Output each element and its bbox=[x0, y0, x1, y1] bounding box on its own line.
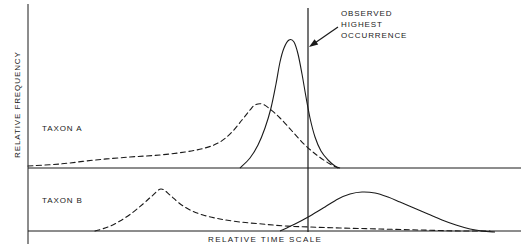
annotation-line-2: HIGHEST bbox=[341, 19, 407, 30]
annotation-arrow-shaft bbox=[313, 27, 338, 44]
taxon-b-solid-curve bbox=[280, 192, 495, 232]
panel-b-curves bbox=[95, 189, 495, 232]
axes-group bbox=[28, 4, 521, 244]
figure-canvas bbox=[0, 0, 521, 244]
observed-highest-occurrence-annotation: OBSERVED HIGHEST OCCURRENCE bbox=[341, 8, 407, 41]
x-axis-label: RELATIVE TIME SCALE bbox=[208, 235, 322, 244]
annotation-arrow-head bbox=[309, 39, 318, 47]
annotation-line-1: OBSERVED bbox=[341, 8, 407, 19]
panel-label-taxon-a: TAXON A bbox=[42, 124, 82, 134]
taxon-a-dashed-curve bbox=[28, 104, 338, 168]
panel-label-taxon-b: TAXON B bbox=[42, 196, 83, 206]
annotation-arrow-group bbox=[309, 27, 338, 47]
annotation-line-3: OCCURRENCE bbox=[341, 30, 407, 41]
panel-a-curves bbox=[28, 40, 340, 168]
taxon-a-solid-curve bbox=[240, 40, 340, 168]
y-axis-label: RELATIVE FREQUENCY bbox=[13, 51, 23, 158]
figure-container: RELATIVE FREQUENCY TAXON A TAXON B OBSER… bbox=[0, 0, 521, 244]
